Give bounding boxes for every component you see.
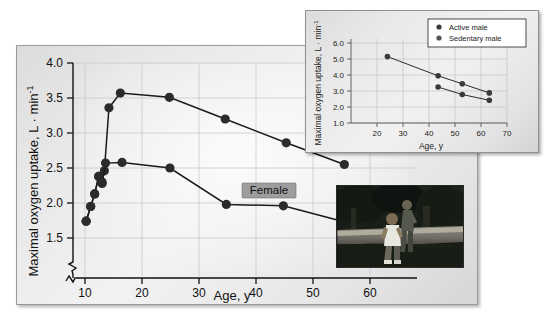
- inset-sedentary-point: [435, 84, 441, 90]
- main-y-axis-title-text: Maximal oxygen uptake, L · min: [26, 93, 41, 276]
- inset-axes: [347, 39, 507, 127]
- main-female-point: [117, 158, 126, 167]
- inset-x-tick-6: 70: [503, 129, 512, 138]
- inset-legend-label-sedentary: Sedentary male: [449, 34, 502, 43]
- inset-y-tick-1: 1.0: [333, 119, 345, 128]
- inset-x-tick-5: 60: [477, 129, 486, 138]
- main-x-tick-1: 10: [78, 286, 92, 300]
- main-female-point: [98, 179, 107, 188]
- inset-active-point: [385, 54, 391, 60]
- main-x-tick-5: 50: [306, 286, 320, 300]
- main-y-tick-1: 1.5: [46, 231, 63, 245]
- inset-chart-panel: 1.0 2.0 3.0 4.0 5.0 6.0 20 30 40 50 60 7…: [305, 10, 539, 153]
- main-x-tick-4: 40: [249, 286, 263, 300]
- main-female-point: [86, 202, 95, 211]
- main-male-point: [165, 93, 174, 102]
- inset-x-axis-title: Age, y: [419, 141, 444, 151]
- inset-y-axis-title-exponent: -1: [313, 20, 319, 26]
- inset-legend-marker-active: [436, 24, 441, 29]
- main-x-tick-2: 20: [135, 286, 149, 300]
- main-y-axis-title-exponent: -1: [25, 85, 35, 93]
- inset-y-axis-title: Maximal oxygen uptake, L · min-1: [313, 20, 323, 146]
- main-female-point: [222, 200, 231, 209]
- main-x-tick-6: 60: [363, 286, 377, 300]
- inset-x-tick-2: 30: [399, 129, 408, 138]
- inset-sedentary-point: [487, 97, 493, 103]
- figure-root: 1.5 2.0 2.5 3.0 3.5 4.0 Maximal oxygen u…: [0, 0, 553, 325]
- svg-text:Maximal oxygen uptake, L · min: Maximal oxygen uptake, L · min-1: [25, 85, 41, 276]
- main-y-tick-6: 4.0: [46, 56, 63, 70]
- main-y-axis: [67, 63, 76, 278]
- main-female-point: [101, 159, 110, 168]
- main-female-point: [90, 189, 99, 198]
- main-y-tick-3: 2.5: [46, 161, 63, 175]
- main-x-tick-3: 30: [192, 286, 206, 300]
- inset-y-tick-2: 2.0: [333, 103, 345, 112]
- main-y-axis-title: Maximal oxygen uptake, L · min-1: [25, 85, 41, 276]
- main-x-axis-title: Age, y: [214, 288, 251, 303]
- inset-y-axis-title-text: Maximal oxygen uptake, L · min: [313, 26, 323, 146]
- inset-chart-svg: 1.0 2.0 3.0 4.0 5.0 6.0 20 30 40 50 60 7…: [306, 11, 540, 154]
- main-label-female-text: Female: [250, 184, 288, 196]
- inset-grid: [351, 39, 507, 123]
- main-x-axis: [66, 276, 417, 284]
- main-label-female: Female: [242, 183, 296, 198]
- inset-legend-marker-sedentary: [436, 35, 441, 40]
- main-y-tick-2: 2.0: [46, 196, 63, 210]
- main-female-point: [279, 201, 288, 210]
- photo-svg: [337, 186, 464, 268]
- main-male-point: [282, 138, 291, 147]
- inset-y-tick-5: 5.0: [333, 55, 345, 64]
- photo-two-runners-jogging-outdoors: [336, 185, 464, 268]
- inset-y-tick-3: 3.0: [333, 87, 345, 96]
- inset-x-tick-4: 50: [451, 129, 460, 138]
- main-y-tick-5: 3.5: [46, 91, 63, 105]
- inset-active-point: [435, 73, 441, 79]
- inset-y-tick-6: 6.0: [333, 39, 345, 48]
- main-female-point: [82, 217, 91, 226]
- main-male-point: [104, 103, 113, 112]
- inset-sedentary-point: [459, 92, 465, 98]
- main-male-point: [340, 160, 349, 169]
- inset-series-sedentary-male-group: [435, 84, 492, 103]
- inset-active-point: [459, 81, 465, 87]
- inset-legend: Active male Sedentary male: [428, 19, 526, 47]
- main-y-tick-4: 3.0: [46, 126, 63, 140]
- inset-x-tick-1: 20: [373, 129, 382, 138]
- main-male-point: [221, 114, 230, 123]
- main-female-point: [165, 163, 174, 172]
- inset-legend-label-active: Active male: [449, 23, 488, 32]
- svg-text:Maximal oxygen uptake, L · min: Maximal oxygen uptake, L · min-1: [313, 20, 323, 146]
- inset-active-point: [487, 90, 493, 96]
- inset-x-tick-3: 40: [425, 129, 434, 138]
- main-male-point: [116, 89, 125, 98]
- inset-y-tick-4: 4.0: [333, 71, 345, 80]
